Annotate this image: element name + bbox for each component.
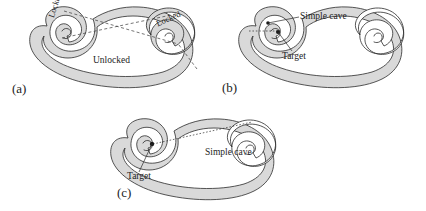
panel-c-graphic	[111, 119, 276, 200]
panel-a-unlocked-label: Unlocked	[93, 56, 130, 66]
spiral-cave-figure: Locked Locked Unlocked (a) Simple cave T…	[0, 0, 426, 211]
panel-c-target-label: Target	[127, 172, 151, 182]
figure-vector-layer	[0, 0, 426, 211]
panel-b-simple-cave-label: Simple cave	[300, 12, 347, 22]
panel-c-outer-band	[111, 119, 274, 200]
panel-b-target-label: Target	[282, 52, 306, 62]
panel-c-simple-cave-label: Simple cave	[205, 148, 252, 158]
panel-b-caption: (b)	[222, 81, 237, 94]
panel-b-right-spiral-tail	[374, 33, 382, 43]
panel-c-caption: (c)	[117, 186, 131, 199]
panel-a-caption: (a)	[12, 82, 26, 95]
